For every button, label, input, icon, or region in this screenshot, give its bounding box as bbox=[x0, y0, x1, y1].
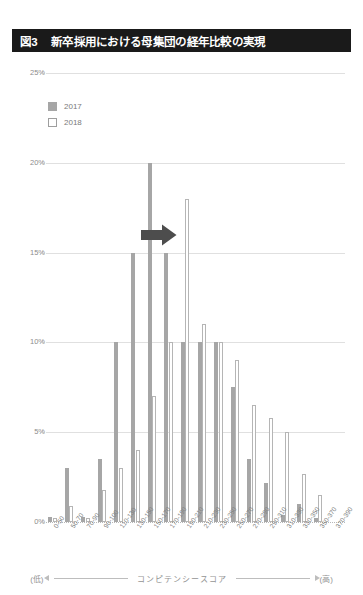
y-axis-tickmark bbox=[40, 342, 45, 343]
gridline-10% bbox=[46, 342, 345, 343]
legend-swatch-2018 bbox=[48, 118, 57, 127]
bar-2018-110-130 bbox=[119, 468, 123, 522]
bar-2017-110-130 bbox=[114, 342, 118, 522]
caption-low: (低) bbox=[30, 573, 43, 584]
x-axis-caption: (低) コンピテンシースコア (高) bbox=[0, 570, 363, 586]
caption-text: コンピテンシースコア bbox=[137, 573, 227, 584]
figure-root: 図3 新卒採用における母集団の経年比較の実現 0%5%10%15%20%25% … bbox=[0, 0, 363, 595]
gridline-20% bbox=[46, 163, 345, 164]
y-axis-tickmark bbox=[40, 432, 45, 433]
legend-swatch-2017 bbox=[48, 102, 57, 111]
y-axis-tickmark bbox=[40, 253, 45, 254]
chart-legend: 2017 2018 bbox=[48, 100, 82, 132]
bar-2018-330-350 bbox=[302, 474, 306, 522]
bar-2018-250-270 bbox=[235, 360, 239, 522]
bar-2017-130-150 bbox=[131, 253, 135, 522]
bar-2017-230-250 bbox=[214, 342, 218, 522]
y-axis-tickmark bbox=[40, 163, 45, 164]
bar-2018-170-190 bbox=[169, 342, 173, 522]
caption-arrow-left-icon bbox=[44, 575, 49, 581]
bar-2018-90-100 bbox=[102, 490, 106, 522]
gridline-15% bbox=[46, 253, 345, 254]
bar-2017-210-230 bbox=[198, 342, 202, 522]
caption-arrow-right-icon bbox=[315, 575, 320, 581]
bar-2018-190-210 bbox=[185, 199, 189, 522]
right-arrow-icon bbox=[141, 224, 177, 246]
bar-2017-250-270 bbox=[231, 387, 235, 522]
legend-label-2018: 2018 bbox=[64, 118, 82, 127]
chart-area: 0%5%10%15%20%25% 0-5050-7070-9090-100110… bbox=[0, 0, 363, 595]
caption-high: (高) bbox=[320, 573, 333, 584]
bar-2018-230-250 bbox=[219, 342, 223, 522]
bar-2018-210-230 bbox=[202, 324, 206, 522]
bar-2018-290-310 bbox=[269, 418, 273, 522]
bar-2017-90-100 bbox=[98, 459, 102, 522]
legend-label-2017: 2017 bbox=[64, 102, 82, 111]
legend-item-2017: 2017 bbox=[48, 100, 82, 113]
caption-rule-left bbox=[54, 578, 128, 579]
bar-2018-270-290 bbox=[252, 405, 256, 522]
legend-item-2018: 2018 bbox=[48, 116, 82, 129]
bar-2017-50-70 bbox=[65, 468, 69, 522]
bar-2017-150-170 bbox=[148, 163, 152, 522]
caption-rule-right bbox=[236, 578, 310, 579]
plot-area bbox=[46, 73, 345, 522]
gridline-25% bbox=[46, 73, 345, 74]
y-axis-tickmark bbox=[40, 73, 45, 74]
bar-2018-150-170 bbox=[152, 396, 156, 522]
bar-2017-190-210 bbox=[181, 342, 185, 522]
y-axis-tickmark bbox=[40, 522, 45, 523]
bar-2017-0-50 bbox=[48, 517, 52, 522]
bar-2017-170-190 bbox=[164, 253, 168, 522]
gridline-5% bbox=[46, 432, 345, 433]
